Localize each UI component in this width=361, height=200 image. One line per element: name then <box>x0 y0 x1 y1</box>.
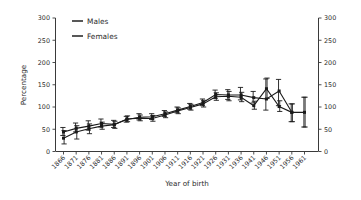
y-tick-label-right: 150 <box>324 81 336 89</box>
data-point <box>113 123 116 126</box>
y-tick-label-left: 100 <box>38 103 50 111</box>
y-tick-label-right: 0 <box>324 148 328 156</box>
y-tick-label-right: 100 <box>324 103 336 111</box>
data-point <box>202 102 205 105</box>
x-axis-title: Year of birth <box>164 179 209 188</box>
data-point <box>303 111 306 114</box>
data-point <box>138 117 141 120</box>
data-point <box>278 105 281 108</box>
data-point <box>214 95 217 98</box>
data-point <box>240 96 243 99</box>
y-tick-label-left: 250 <box>38 37 50 45</box>
y-tick-label-left: 300 <box>38 14 50 22</box>
data-point <box>100 125 103 128</box>
data-point <box>87 125 90 128</box>
data-point <box>62 137 65 140</box>
y-tick-label-left: 200 <box>38 59 50 67</box>
legend-label: Females <box>87 32 118 41</box>
y-tick-label-left: 50 <box>42 126 50 134</box>
data-point <box>125 118 128 121</box>
data-point <box>163 114 166 117</box>
y-axis-title: Percentage <box>19 64 28 105</box>
data-point <box>290 111 293 114</box>
y-tick-label-right: 300 <box>324 14 336 22</box>
y-tick-label-right: 250 <box>324 37 336 45</box>
data-point <box>265 87 268 90</box>
data-point <box>75 130 78 133</box>
legend-label: Males <box>87 17 109 26</box>
data-point <box>227 95 230 98</box>
y-tick-label-right: 50 <box>324 126 332 134</box>
y-tick-label-left: 0 <box>46 148 50 156</box>
data-point <box>176 110 179 113</box>
data-point <box>252 96 255 99</box>
data-point <box>87 127 90 130</box>
data-point <box>278 89 281 92</box>
data-point <box>151 117 154 120</box>
y-tick-label-right: 200 <box>324 59 336 67</box>
line-chart-with-error-bars: 050100150200250300 050100150200250300 18… <box>0 0 361 200</box>
data-point <box>252 104 255 107</box>
data-point <box>189 106 192 109</box>
y-tick-label-left: 150 <box>38 81 50 89</box>
data-point <box>75 127 78 130</box>
chart-figure: 050100150200250300 050100150200250300 18… <box>0 0 361 200</box>
